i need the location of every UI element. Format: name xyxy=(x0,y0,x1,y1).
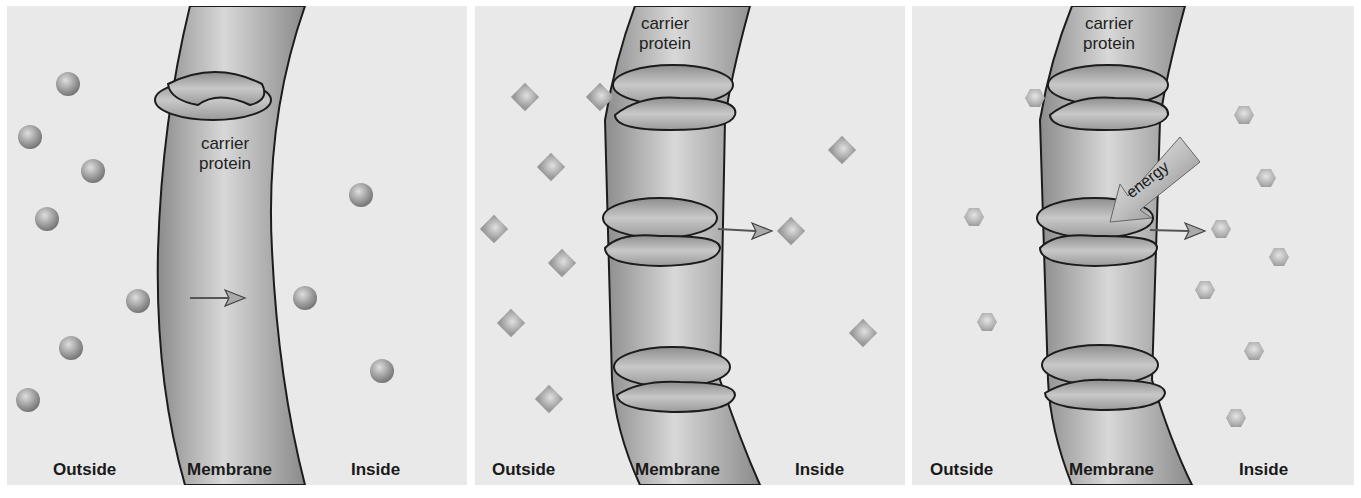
carrier-protein-label: carrier protein xyxy=(175,134,275,174)
transport-arrow xyxy=(718,223,772,239)
panel-2-diagram xyxy=(475,6,905,485)
outside-label: Outside xyxy=(930,460,993,480)
membrane-label: Membrane xyxy=(1069,460,1154,480)
transport-arrow xyxy=(1150,223,1205,239)
inside-label: Inside xyxy=(351,460,400,480)
membrane-label: Membrane xyxy=(187,460,272,480)
inside-label: Inside xyxy=(1239,460,1288,480)
membrane-label: Membrane xyxy=(635,460,720,480)
inside-label: Inside xyxy=(795,460,844,480)
panel-1-diagram xyxy=(7,6,467,485)
panel-3-diagram xyxy=(912,6,1354,485)
carrier-protein-label: carrier protein xyxy=(1059,14,1159,54)
outside-label: Outside xyxy=(492,460,555,480)
panel-facilitated-diffusion: carrier protein Outside Membrane Inside xyxy=(7,6,467,485)
carrier-protein-label: carrier protein xyxy=(615,14,715,54)
panel-active-transport: carrier protein energy Outside Membrane … xyxy=(912,6,1354,485)
panel-carrier-transport: carrier protein Outside Membrane Inside xyxy=(475,6,905,485)
outside-label: Outside xyxy=(53,460,116,480)
